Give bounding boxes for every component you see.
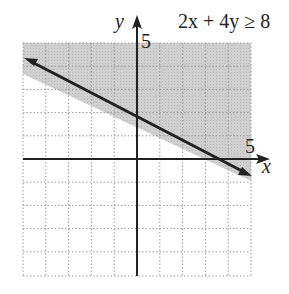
- inequality-graph: y 5 5 x 2x + 4y ≥ 8: [0, 0, 289, 294]
- inequality-label: 2x + 4y ≥ 8: [178, 10, 270, 33]
- x-axis-label: x: [262, 155, 271, 178]
- y-tick-label: 5: [141, 30, 151, 53]
- y-axis-label: y: [115, 10, 124, 33]
- x-tick-label: 5: [245, 135, 255, 158]
